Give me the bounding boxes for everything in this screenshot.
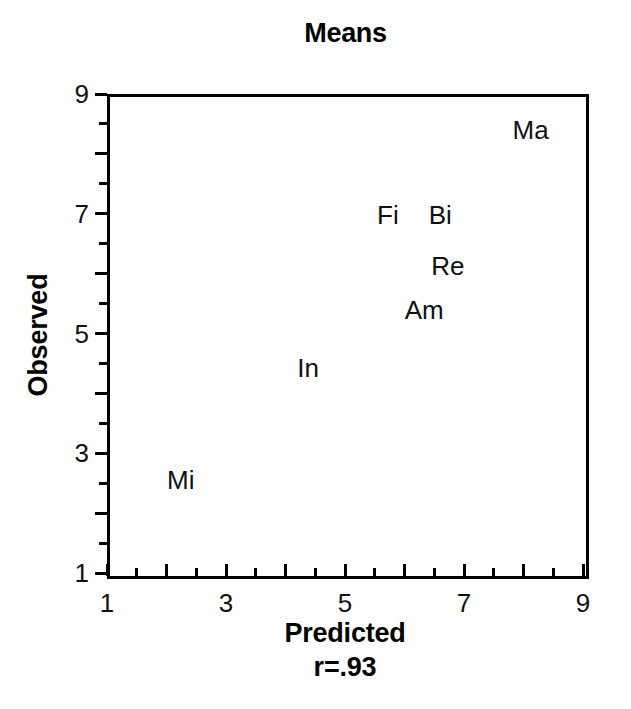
y-axis-tick [95, 212, 107, 215]
data-point-label: Mi [167, 467, 194, 493]
data-point-label: Fi [377, 202, 399, 228]
y-axis-tick [99, 542, 107, 545]
plot-inner: MaFiBiReAmInMi [110, 97, 586, 576]
x-axis-tick [433, 568, 436, 576]
scatter-plot-figure: Means MaFiBiReAmInMi 1357913579 Predicte… [0, 0, 631, 709]
x-axis-tick [344, 564, 347, 576]
data-point-label: Am [405, 297, 444, 323]
y-axis-tick [95, 93, 107, 96]
y-axis-tick [99, 362, 107, 365]
x-axis-tick [403, 564, 406, 576]
x-tick-label: 5 [338, 590, 352, 616]
x-axis-tick [165, 564, 168, 576]
x-axis-tick [195, 568, 198, 576]
x-axis-tick [225, 564, 228, 576]
data-point-label: In [297, 355, 319, 381]
y-tick-label: 9 [55, 81, 89, 107]
y-axis-tick [95, 392, 107, 395]
y-axis-tick [95, 512, 107, 515]
chart-title: Means [0, 20, 631, 47]
y-axis-tick [95, 452, 107, 455]
x-axis-tick [582, 564, 585, 576]
y-axis-tick [99, 122, 107, 125]
correlation-annotation: r=.93 [107, 654, 583, 681]
data-point-label: Re [431, 253, 464, 279]
y-axis-tick [95, 332, 107, 335]
y-axis-tick [95, 572, 107, 575]
y-tick-label: 7 [55, 201, 89, 227]
x-axis-tick [552, 568, 555, 576]
y-tick-label: 3 [55, 440, 89, 466]
x-tick-label: 3 [219, 590, 233, 616]
x-tick-label: 7 [457, 590, 471, 616]
y-axis-tick [99, 482, 107, 485]
y-axis-tick [95, 152, 107, 155]
x-axis-tick [373, 568, 376, 576]
x-axis-tick [463, 564, 466, 576]
data-point-label: Ma [513, 117, 549, 143]
x-axis-tick [314, 568, 317, 576]
x-tick-label: 1 [100, 590, 114, 616]
y-tick-label: 5 [55, 321, 89, 347]
x-axis-tick [284, 564, 287, 576]
y-axis-tick [99, 242, 107, 245]
x-tick-label: 9 [576, 590, 590, 616]
x-axis-tick [492, 568, 495, 576]
y-tick-label: 1 [55, 560, 89, 586]
data-point-label: Bi [429, 202, 452, 228]
y-axis-tick [99, 182, 107, 185]
x-axis-tick [522, 564, 525, 576]
plot-area: MaFiBiReAmInMi [107, 94, 589, 579]
y-axis-title: Observed [25, 274, 52, 397]
x-axis-title: Predicted [107, 620, 583, 647]
x-axis-tick [135, 568, 138, 576]
y-axis-tick [95, 272, 107, 275]
x-axis-tick [254, 568, 257, 576]
y-axis-tick [99, 302, 107, 305]
y-axis-tick [99, 422, 107, 425]
